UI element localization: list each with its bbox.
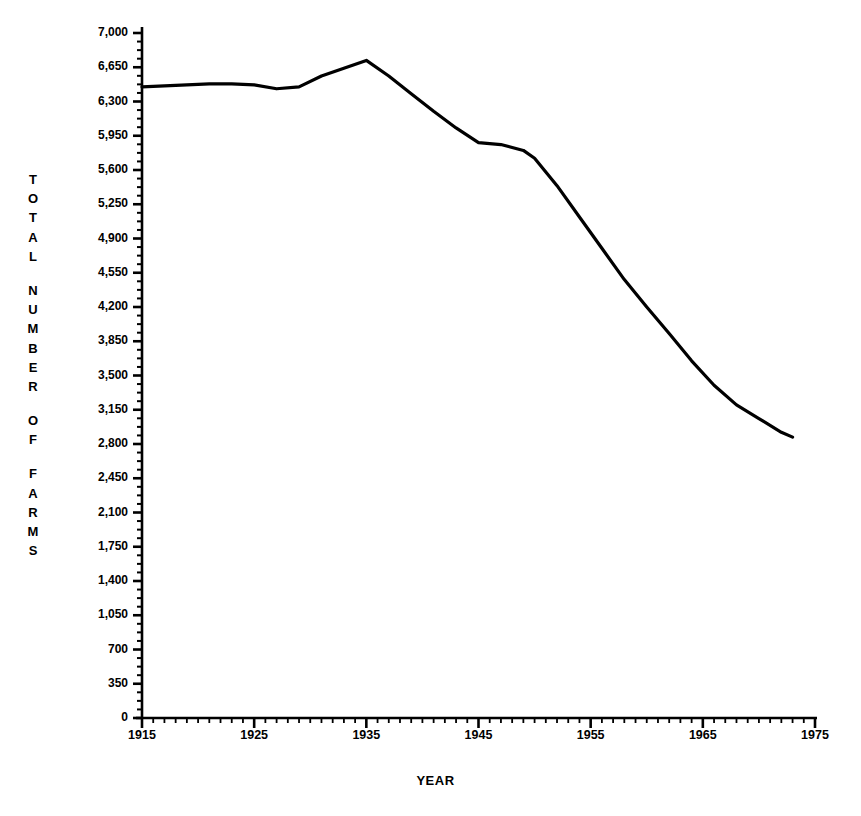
axis-lines [136,27,817,718]
plot-area [0,0,861,816]
chart-container: TOTALNUMBEROFFARMS 03507001,0501,4001,75… [0,0,861,816]
x-axis-ticks [142,718,815,728]
y-axis-ticks [133,33,142,718]
data-series-line [142,60,793,437]
